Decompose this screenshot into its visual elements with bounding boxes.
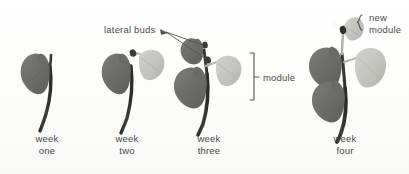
leaf-light-right [355, 48, 386, 88]
stem-tip [50, 55, 51, 66]
stage-week-three [174, 38, 259, 135]
leaf-light-right [216, 56, 241, 86]
stage-week-two [102, 48, 165, 133]
caption-week-one-line-1: week [14, 133, 80, 145]
annotation-new-module: new module [369, 12, 401, 35]
stage-week-one [21, 53, 51, 131]
caption-week-one-line-2: one [14, 145, 80, 157]
caption-week-four-line-1: week [310, 133, 380, 145]
caption-week-four-line-2: four [310, 145, 380, 157]
caption-week-two-line-1: week [94, 133, 160, 145]
annotation-lateral-buds: lateral buds [104, 24, 156, 36]
caption-week-two-line-2: two [94, 145, 160, 157]
annotation-new-module-line-1: new [369, 12, 401, 24]
caption-week-three-line-2: three [174, 145, 244, 157]
caption-week-three: week three [174, 133, 244, 156]
caption-week-four: week four [310, 133, 380, 156]
leaf-light-1 [139, 50, 164, 80]
module-bracket [250, 53, 254, 100]
caption-week-one: week one [14, 133, 80, 156]
caption-week-two: week two [94, 133, 160, 156]
annotation-new-module-line-2: module [369, 24, 401, 36]
caption-week-three-line-1: week [174, 133, 244, 145]
annotation-module: module [263, 72, 295, 84]
stem-mid [342, 54, 345, 88]
plant-growth-diagram: lateral buds module new module week one … [0, 0, 409, 174]
